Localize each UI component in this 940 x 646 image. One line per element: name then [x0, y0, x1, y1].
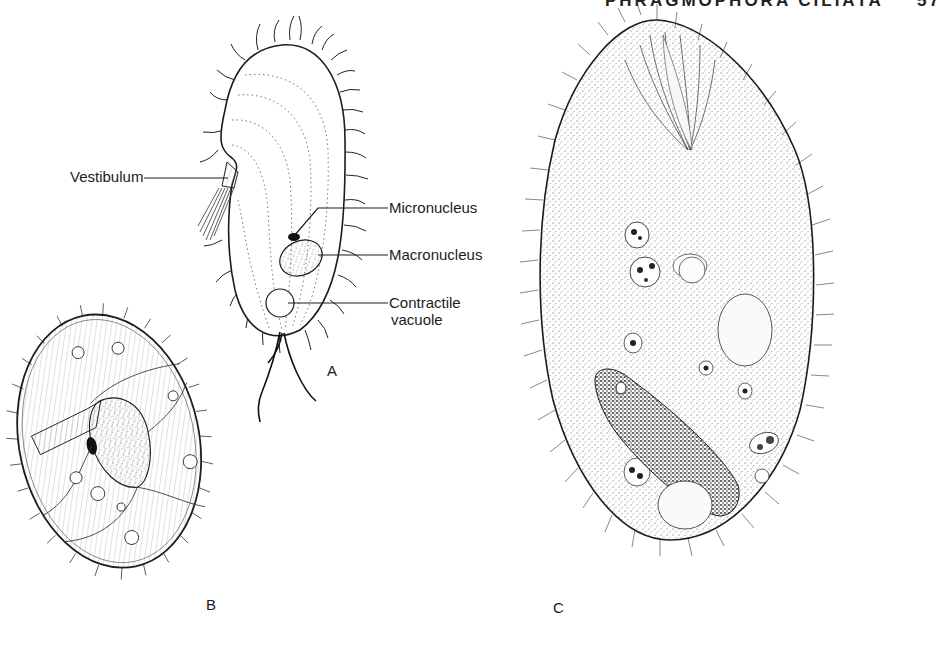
- label-macronucleus: Macronucleus: [389, 246, 482, 263]
- panel-letter-b: B: [206, 596, 216, 613]
- vacuole-c-large: [718, 294, 772, 366]
- organism-b: [0, 284, 238, 598]
- panel-letter-a: A: [327, 362, 337, 379]
- organism-c: [520, 0, 834, 556]
- page-number: 57: [917, 0, 940, 10]
- food-vacuole-c-1: [625, 222, 649, 248]
- organism-a: [144, 16, 388, 422]
- food-vacuole-c-2: [630, 257, 660, 287]
- label-contractile: Contractile: [389, 294, 461, 311]
- label-micronucleus: Micronucleus: [389, 199, 477, 216]
- label-vacuole: vacuole: [391, 311, 443, 328]
- label-vestibulum: Vestibulum: [70, 168, 143, 185]
- panel-letter-c: C: [553, 599, 564, 616]
- caudal-cilia-a: [258, 332, 316, 422]
- contractile-vacuole-c-bottom: [658, 481, 712, 529]
- micronucleus-a: [288, 233, 300, 241]
